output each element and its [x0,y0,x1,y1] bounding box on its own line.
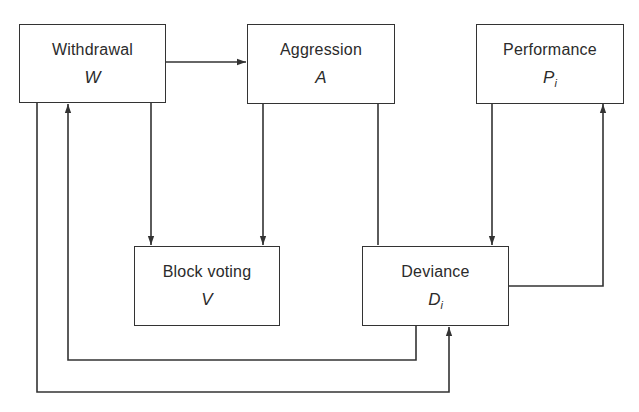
node-symbol: Di [428,290,443,311]
node-label: Block voting [163,263,252,281]
node-symbol: V [201,290,212,310]
node-deviance: Deviance Di [362,246,509,326]
node-symbol: A [315,68,326,88]
node-performance: Performance Pi [476,24,624,104]
node-label: Deviance [401,263,469,281]
node-aggression: Aggression A [247,24,395,104]
node-withdrawal: Withdrawal W [19,24,166,103]
node-label: Aggression [280,41,362,59]
node-symbol: W [84,68,100,88]
node-symbol: Pi [543,68,557,89]
node-label: Performance [503,41,597,59]
edge-deviance-to-performance [508,104,603,286]
node-label: Withdrawal [52,41,133,59]
node-block-voting: Block voting V [134,246,280,326]
